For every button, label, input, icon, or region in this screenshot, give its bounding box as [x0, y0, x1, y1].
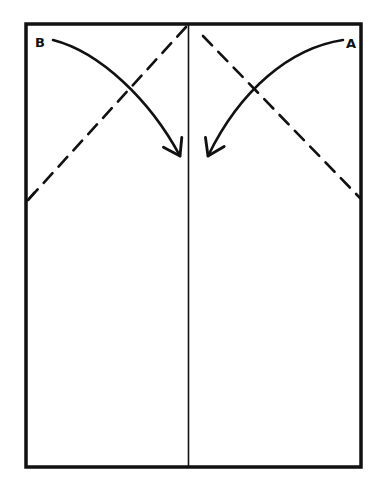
folding-diagram: B A: [0, 0, 373, 488]
paper-sheet-outline: [26, 24, 361, 467]
corner-label-a: A: [346, 36, 356, 51]
corner-label-b: B: [35, 35, 45, 50]
